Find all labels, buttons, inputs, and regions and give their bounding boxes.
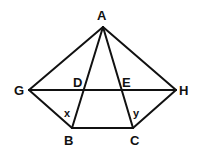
point-label-B: B [64,133,73,148]
point-label-E: E [122,75,131,90]
point-label-A: A [97,8,107,23]
segment-HC [133,90,176,128]
segment-AG [29,27,103,90]
angle-label-x: x [64,107,71,119]
angle-label-y: y [133,107,140,119]
point-label-D: D [73,75,82,90]
point-label-C: C [130,133,140,148]
geometry-diagram: A G H D E B C x y [0,0,200,157]
segment-AH [103,27,176,90]
point-label-G: G [14,83,24,98]
point-label-H: H [179,83,188,98]
